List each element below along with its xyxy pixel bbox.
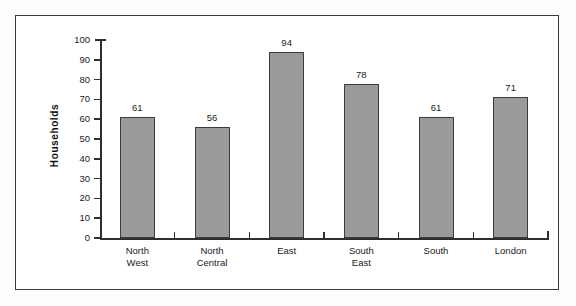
y-axis-tick-label-wrap: 80	[62, 75, 90, 85]
y-axis-tick-label: 50	[64, 134, 90, 144]
y-axis-tick-label-wrap: 0	[62, 233, 90, 243]
chart-figure: Households 0102030405060708090100 61Nort…	[0, 0, 576, 306]
x-axis-category-label: London	[471, 245, 551, 257]
bar-value-label: 61	[416, 103, 456, 113]
x-axis-category-label: East	[247, 245, 327, 257]
y-axis-tick	[94, 178, 101, 180]
y-axis-tick-label-wrap: 70	[62, 94, 90, 104]
y-axis-tick	[94, 237, 101, 239]
x-axis-tick	[398, 232, 400, 239]
bar	[195, 127, 230, 238]
y-axis-tick	[94, 158, 101, 160]
y-axis-tick-label-wrap: 90	[62, 55, 90, 65]
bar-value-label: 71	[491, 83, 531, 93]
y-axis-tick-label: 100	[64, 35, 90, 45]
y-axis-tick	[94, 118, 101, 120]
y-axis-tick-label-wrap: 60	[62, 114, 90, 124]
y-axis-tick-label: 70	[64, 94, 90, 104]
x-axis-tick	[547, 231, 549, 240]
y-axis-tick-label-wrap: 10	[62, 213, 90, 223]
y-axis-title: Households	[49, 76, 60, 196]
y-axis-tick-label: 90	[64, 55, 90, 65]
x-axis-tick	[473, 232, 475, 239]
x-axis-category-label: North Central	[172, 245, 252, 268]
x-axis-tick	[174, 232, 176, 239]
y-axis-tick-label: 60	[64, 114, 90, 124]
y-axis-tick-label: 10	[64, 213, 90, 223]
y-axis-tick	[95, 39, 106, 41]
bar-value-label: 56	[192, 113, 232, 123]
plot-area: Households 0102030405060708090100 61Nort…	[0, 0, 576, 306]
y-axis-tick	[94, 198, 101, 200]
y-axis-tick-label-wrap: 100	[62, 35, 90, 45]
y-axis-tick	[94, 217, 101, 219]
x-axis-category-label: South East	[321, 245, 401, 268]
y-axis-tick-label: 80	[64, 75, 90, 85]
y-axis-tick-label-wrap: 50	[62, 134, 90, 144]
y-axis-tick-label: 40	[64, 154, 90, 164]
y-axis-tick-label-wrap: 20	[62, 193, 90, 203]
y-axis-tick-label-wrap: 40	[62, 154, 90, 164]
y-axis-tick-label-wrap: 30	[62, 174, 90, 184]
bar	[269, 52, 304, 238]
y-axis-tick	[94, 59, 101, 61]
x-axis-category-label: South	[396, 245, 476, 257]
bar	[344, 84, 379, 238]
bar	[419, 117, 454, 238]
y-axis-tick-label: 30	[64, 174, 90, 184]
y-axis-tick-label: 0	[64, 233, 90, 243]
x-axis-category-label: North West	[97, 245, 177, 268]
y-axis-tick	[94, 138, 101, 140]
bar-value-label: 78	[341, 70, 381, 80]
bar-value-label: 94	[267, 38, 307, 48]
x-axis-tick	[323, 232, 325, 239]
bar	[120, 117, 155, 238]
y-axis-tick-label: 20	[64, 193, 90, 203]
y-axis-tick	[94, 99, 101, 101]
bar-value-label: 61	[117, 103, 157, 113]
x-axis-tick	[249, 232, 251, 239]
bar	[493, 97, 528, 238]
y-axis-tick	[94, 79, 101, 81]
